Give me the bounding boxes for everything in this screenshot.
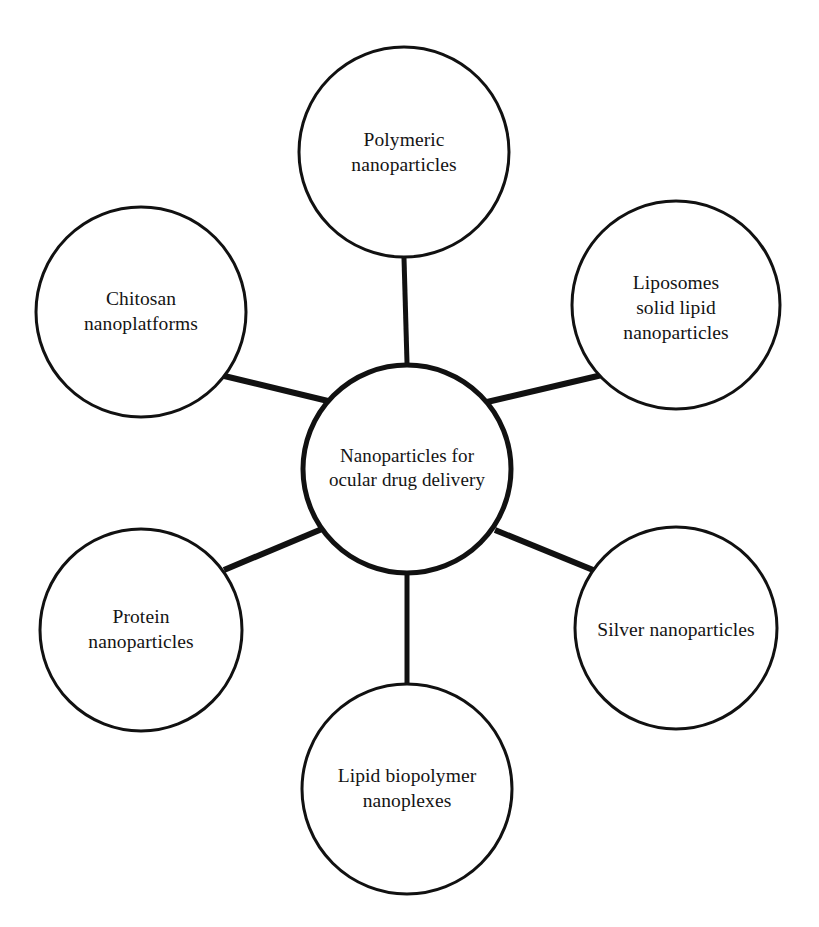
- circle-liposomes-solid-lipid-nanoparticles: [572, 201, 780, 409]
- circle-protein-nanoparticles: [40, 529, 242, 731]
- circle-chitosan-nanoplatforms: [36, 207, 246, 417]
- circle-center-node: [303, 365, 511, 573]
- connector-center-to-polymeric: [404, 258, 407, 363]
- diagram-root: Polymeric nanoparticles Liposomes solid …: [0, 0, 819, 927]
- circle-lipid-biopolymer-nanoplexes: [302, 684, 512, 894]
- connector-center-to-silver: [495, 530, 598, 572]
- circle-polymeric-nanoparticles: [299, 47, 509, 257]
- circle-silver-nanoparticles: [575, 527, 777, 729]
- diagram-canvas: [0, 0, 819, 927]
- connector-center-to-liposomes: [487, 375, 602, 402]
- connector-center-to-chitosan: [216, 374, 328, 401]
- connector-center-to-protein: [224, 529, 322, 570]
- node-circle-group: [36, 47, 780, 894]
